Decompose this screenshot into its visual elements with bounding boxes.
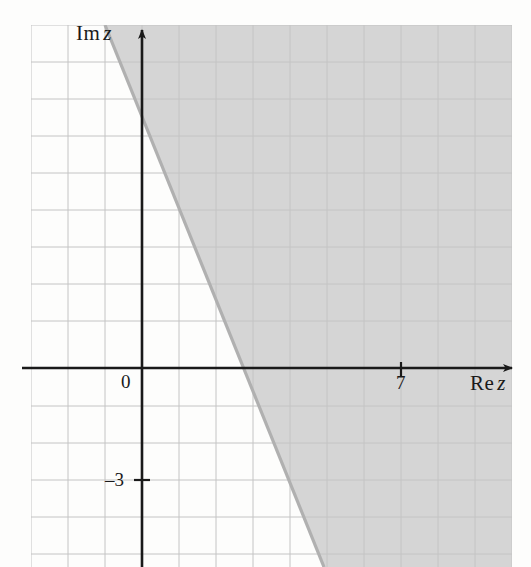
imaginary-axis-label-text: Im: [76, 21, 100, 45]
plot-canvas: [0, 0, 531, 567]
complex-plane-figure: Imz Rez 0 7 –3: [0, 0, 531, 567]
origin-label: 0: [121, 371, 131, 393]
real-axis-label-text: Re: [470, 371, 494, 395]
imaginary-axis-label: Imz: [76, 21, 112, 46]
imaginary-axis-label-var: z: [100, 21, 112, 45]
real-axis-label: Rez: [470, 371, 506, 396]
y-tick-label-minus3: –3: [105, 469, 124, 491]
real-axis-label-var: z: [494, 371, 506, 395]
x-tick-label-7: 7: [396, 372, 406, 394]
